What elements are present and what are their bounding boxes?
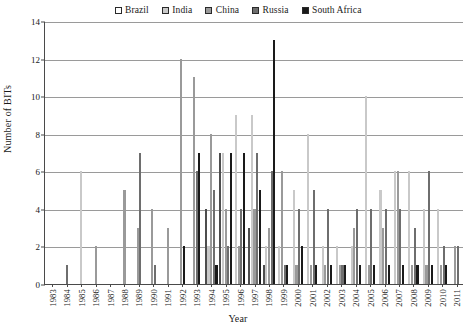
legend-label: Brazil — [125, 6, 149, 16]
x-tick-mark — [67, 284, 68, 287]
legend-entry-china[interactable]: China — [205, 6, 239, 16]
bar-group-2005 — [363, 22, 377, 284]
bar-group-2008 — [406, 22, 420, 284]
chart-legend: BrazilIndiaChinaRussiaSouth Africa — [0, 6, 476, 16]
x-tick-label: 1986 — [91, 289, 101, 307]
y-tick-label: 12 — [31, 55, 40, 65]
bar-group-2004 — [348, 22, 362, 284]
bar-india-1985[interactable] — [80, 171, 82, 284]
bar-southafrica-2003[interactable] — [344, 265, 346, 284]
x-tick-label: 2011 — [452, 289, 462, 307]
x-tick-label: 1985 — [77, 289, 87, 307]
x-tick-mark — [255, 284, 256, 287]
legend-swatch-icon — [205, 7, 212, 14]
x-tick-label: 1991 — [163, 289, 173, 307]
x-tick-mark — [96, 284, 97, 287]
bar-china-1988[interactable] — [123, 190, 125, 284]
legend-entry-brazil[interactable]: Brazil — [115, 6, 149, 16]
x-tick-label: 1994 — [207, 289, 217, 307]
bar-group-2003 — [334, 22, 348, 284]
bar-group-1993 — [189, 22, 203, 284]
x-tick-label: 1993 — [192, 289, 202, 307]
bar-southafrica-1997[interactable] — [259, 190, 261, 284]
bar-russia-1990[interactable] — [154, 265, 156, 284]
legend-entry-south-africa[interactable]: South Africa — [302, 6, 362, 16]
x-tick-mark — [356, 284, 357, 287]
y-tick-label: 8 — [36, 130, 41, 140]
legend-entry-russia[interactable]: Russia — [252, 6, 288, 16]
bar-russia-2011[interactable] — [457, 246, 459, 284]
bar-china-1986[interactable] — [95, 246, 97, 284]
x-tick-label: 1987 — [106, 289, 116, 307]
legend-entry-india[interactable]: India — [162, 6, 193, 16]
bar-group-2006 — [377, 22, 391, 284]
legend-swatch-icon — [162, 7, 169, 14]
x-tick-label: 2001 — [308, 289, 318, 307]
bar-southafrica-1996[interactable] — [243, 153, 245, 285]
legend-label: China — [216, 6, 239, 16]
bar-group-2007 — [392, 22, 406, 284]
bar-group-1999 — [276, 22, 290, 284]
x-tick-label: 2000 — [293, 289, 303, 307]
x-tick-mark — [81, 284, 82, 287]
bar-southafrica-2004[interactable] — [359, 265, 361, 284]
x-tick-mark — [110, 284, 111, 287]
x-tick-mark — [269, 284, 270, 287]
bar-china-1991[interactable] — [167, 228, 169, 284]
bar-group-1985 — [74, 22, 88, 284]
bar-russia-1984[interactable] — [66, 265, 68, 284]
bar-southafrica-2000[interactable] — [301, 246, 303, 284]
x-tick-mark — [240, 284, 241, 287]
bar-southafrica-2008[interactable] — [416, 265, 418, 284]
plot-area: 0246810121419831984198519861987198819891… — [44, 22, 463, 285]
bar-group-2000 — [291, 22, 305, 284]
bar-southafrica-2007[interactable] — [402, 265, 404, 284]
y-tick-label: 14 — [31, 17, 40, 27]
x-tick-mark — [283, 284, 284, 287]
bar-southafrica-1994[interactable] — [215, 265, 217, 284]
bar-russia-1989[interactable] — [139, 153, 141, 285]
x-tick-label: 1992 — [178, 289, 188, 307]
x-tick-label: 1990 — [149, 289, 159, 307]
bar-southafrica-1995[interactable] — [230, 153, 232, 285]
x-tick-label: 1996 — [236, 289, 246, 307]
bar-southafrica-2009[interactable] — [431, 265, 433, 284]
bar-group-1989 — [132, 22, 146, 284]
bar-southafrica-2006[interactable] — [388, 265, 390, 284]
x-tick-mark — [385, 284, 386, 287]
bar-southafrica-1998[interactable] — [273, 40, 275, 284]
bit-treaties-bar-chart: BrazilIndiaChinaRussiaSouth Africa Numbe… — [0, 0, 476, 335]
x-tick-label: 2006 — [380, 289, 390, 307]
bar-group-2001 — [305, 22, 319, 284]
bar-southafrica-2005[interactable] — [373, 265, 375, 284]
y-tick-label: 2 — [36, 242, 41, 252]
y-tick-label: 0 — [36, 280, 41, 290]
bar-southafrica-1992[interactable] — [183, 246, 185, 284]
x-tick-mark — [370, 284, 371, 287]
bar-india-2005[interactable] — [365, 96, 367, 284]
x-tick-mark — [312, 284, 313, 287]
x-tick-label: 2009 — [423, 289, 433, 307]
bar-group-2009 — [421, 22, 435, 284]
bar-southafrica-2002[interactable] — [330, 265, 332, 284]
bar-southafrica-1993[interactable] — [198, 153, 200, 285]
x-tick-label: 1998 — [264, 289, 274, 307]
bar-southafrica-2001[interactable] — [315, 265, 317, 284]
x-tick-label: 2005 — [366, 289, 376, 307]
bar-india-2001[interactable] — [307, 134, 309, 284]
x-tick-label: 2004 — [351, 289, 361, 307]
bar-southafrica-2010[interactable] — [445, 265, 447, 284]
x-tick-mark — [168, 284, 169, 287]
y-tick-mark — [41, 285, 45, 286]
x-tick-mark — [457, 284, 458, 287]
x-tick-label: 2002 — [322, 289, 332, 307]
y-tick-label: 6 — [36, 167, 41, 177]
bar-southafrica-1999[interactable] — [286, 265, 288, 284]
bar-group-1984 — [59, 22, 73, 284]
bar-group-2002 — [320, 22, 334, 284]
x-tick-mark — [341, 284, 342, 287]
y-tick-label: 10 — [31, 92, 40, 102]
legend-swatch-icon — [302, 7, 309, 14]
bar-group-1990 — [146, 22, 160, 284]
x-tick-label: 1999 — [279, 289, 289, 307]
